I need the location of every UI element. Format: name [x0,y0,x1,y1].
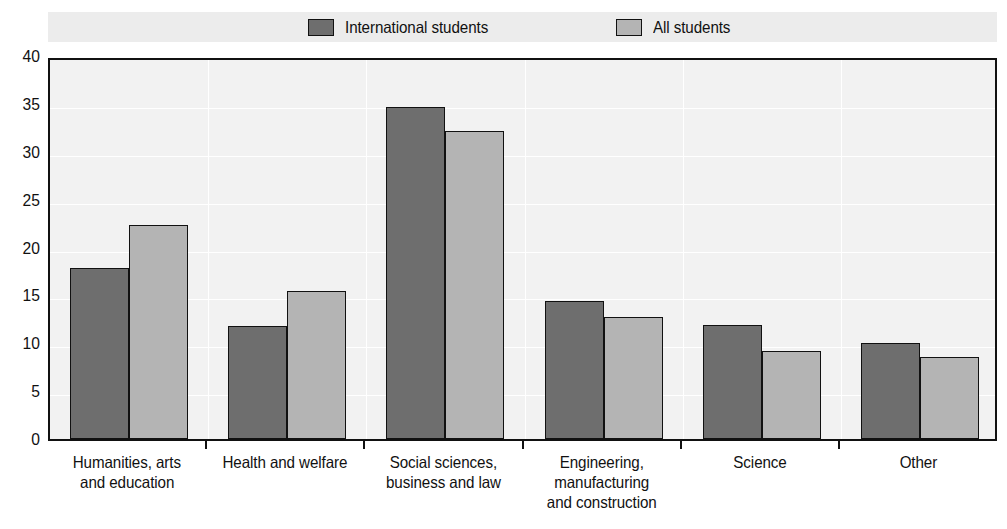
legend-swatch-all-icon [616,19,642,36]
gridline-horizontal [50,156,995,157]
chart-legend: International students All students [48,12,997,42]
x-axis-tick-mark [205,441,207,449]
y-axis-tick-label: 15 [5,286,40,306]
x-axis-tick-mark [680,441,682,449]
gridline-horizontal [50,395,995,396]
gridline-vertical [366,60,367,439]
bar-all-4 [762,351,821,439]
gridline-vertical [525,60,526,439]
bar-all-2 [445,131,504,439]
bar-international-0 [70,268,129,439]
legend-entry-all: All students [616,18,737,37]
y-axis-tick-label: 40 [5,47,40,67]
category-label-5: Other [825,452,1007,472]
x-axis-tick-mark [838,441,840,449]
x-axis-tick-mark [522,441,524,449]
bar-international-2 [386,107,445,439]
y-axis-tick-label: 0 [5,430,40,450]
legend-label-all: All students [653,18,730,37]
gridline-vertical [841,60,842,439]
bar-international-5 [861,343,920,439]
y-axis-tick-label: 20 [5,239,40,259]
gridline-vertical [208,60,209,439]
gridline-horizontal [50,108,995,109]
x-axis-tick-mark [363,441,365,449]
gridline-horizontal [50,347,995,348]
y-axis-tick-labels: 4035302520151050 [0,0,40,529]
legend-label-international: International students [345,18,488,37]
bar-all-0 [129,225,188,439]
bar-international-1 [228,326,287,439]
bar-chart: International students All students 4035… [0,0,1007,529]
bar-international-4 [703,325,762,439]
gridline-horizontal [50,252,995,253]
plot-area [48,58,997,441]
y-axis-tick-label: 25 [5,191,40,211]
bar-all-3 [604,317,663,439]
legend-swatch-international-icon [308,19,334,36]
gridline-horizontal [50,299,995,300]
bar-all-5 [920,357,979,439]
legend-entry-international: International students [308,18,501,37]
gridline-vertical [683,60,684,439]
bar-all-1 [287,291,346,439]
bar-international-3 [545,301,604,439]
y-axis-tick-label: 10 [5,334,40,354]
y-axis-tick-label: 35 [5,95,40,115]
y-axis-tick-label: 5 [5,382,40,402]
gridline-horizontal [50,204,995,205]
y-axis-tick-label: 30 [5,143,40,163]
